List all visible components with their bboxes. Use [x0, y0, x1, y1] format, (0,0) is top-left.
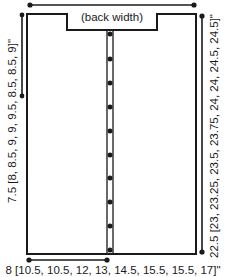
left-dimension-line — [20, 13, 25, 99]
button-icon — [108, 176, 113, 181]
top-dimension-line — [27, 2, 196, 7]
button-icon — [108, 153, 113, 158]
button-icon — [108, 248, 113, 253]
right-height-label: 22.5 [23, 23.25, 23.5, 23.75, 24, 24, 24… — [208, 14, 220, 258]
button-icon — [108, 81, 113, 86]
buttons — [108, 32, 113, 253]
bottom-width-label: 8 [10.5, 10.5, 12, 13, 14.5, 15.5, 15.5,… — [5, 264, 220, 276]
button-band — [107, 30, 113, 254]
button-icon — [108, 57, 113, 62]
button-icon — [108, 129, 113, 134]
button-icon — [108, 32, 113, 37]
bottom-dimension-line — [26, 257, 109, 262]
left-height-label: 7.5 [8, 8.5, 9, 9, 9.5, 8.5, 8.5, 9]" — [6, 39, 18, 203]
right-dimension-line — [199, 13, 204, 254]
back-width-label: (back width) — [81, 11, 143, 23]
button-icon — [108, 105, 113, 110]
button-icon — [108, 224, 113, 229]
button-icon — [108, 200, 113, 205]
garment-outline — [27, 14, 196, 254]
cardigan-schematic: (back width) 7.5 [8, 8.5, 9, 9, 9.5, 8.5… — [0, 0, 231, 277]
